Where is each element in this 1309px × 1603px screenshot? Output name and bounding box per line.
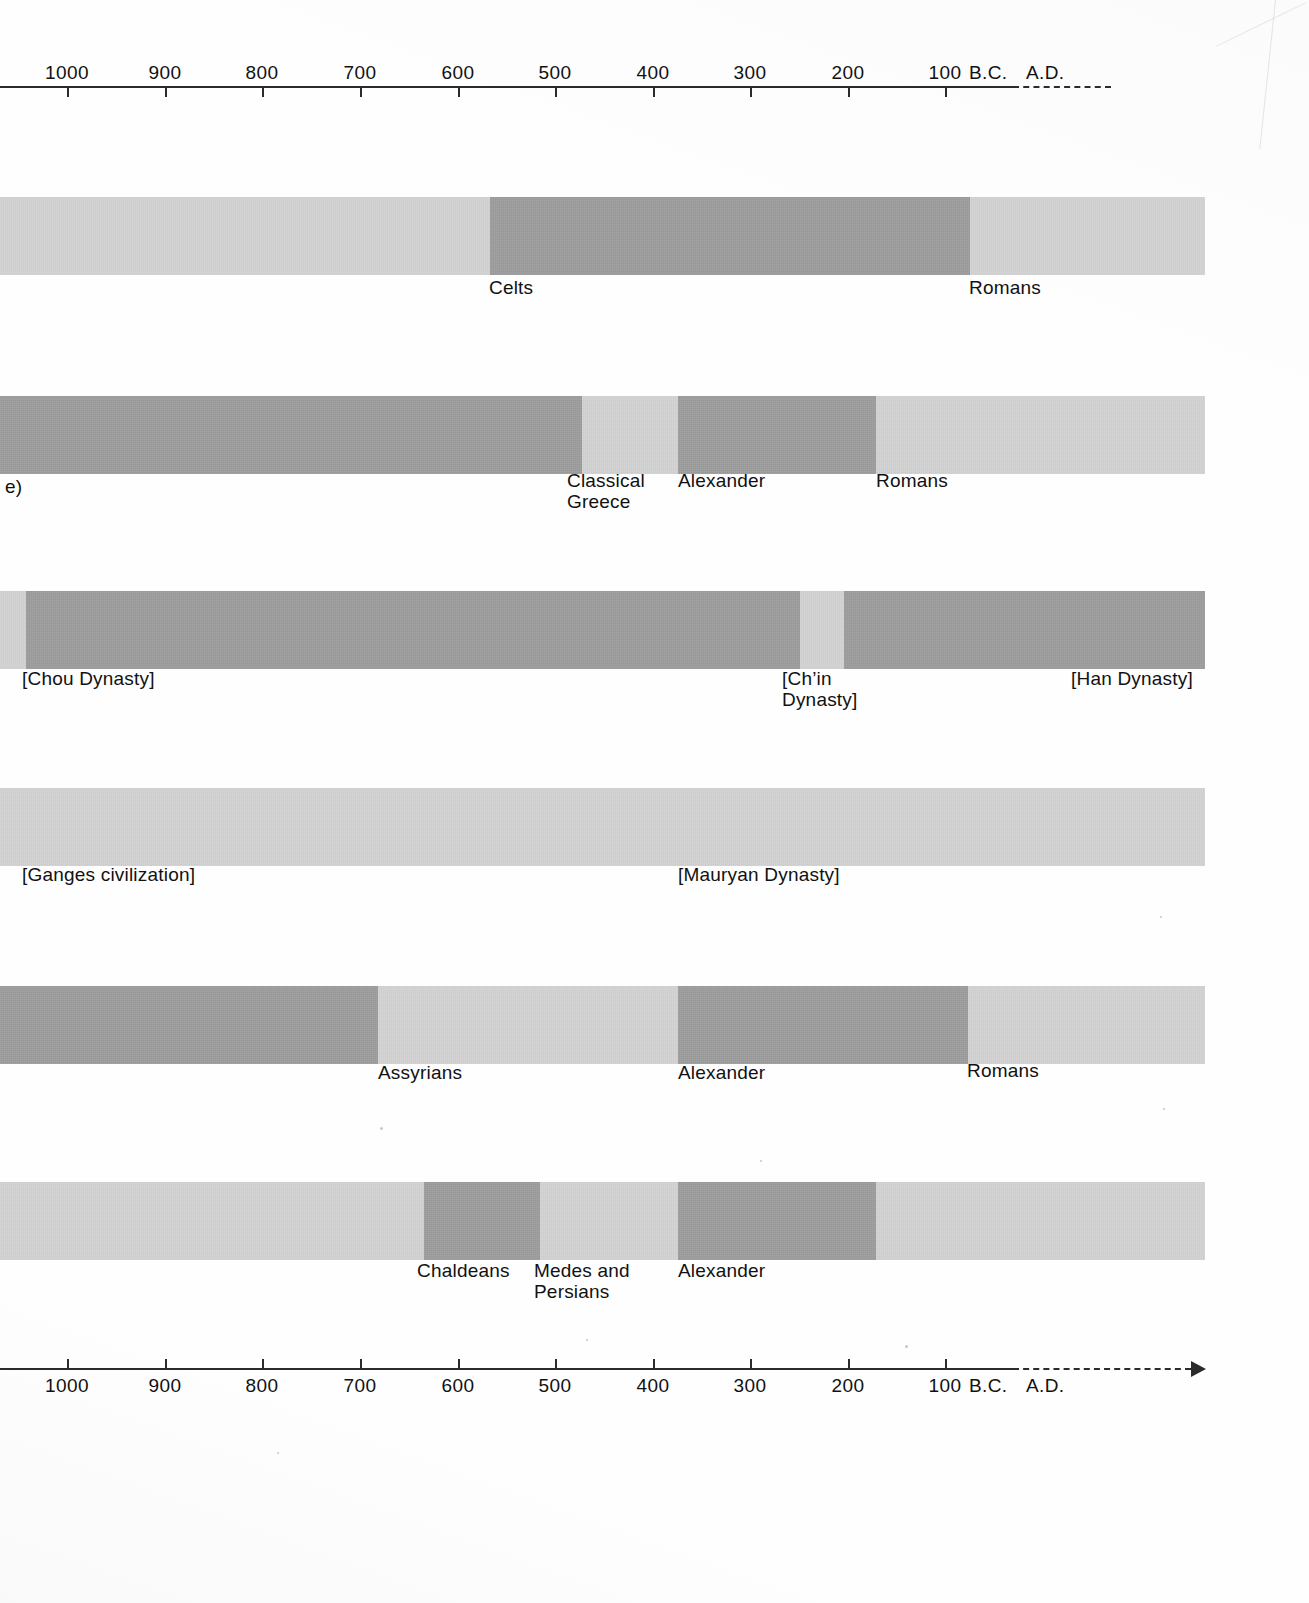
segment-label: [Ch’in Dynasty] xyxy=(782,668,858,710)
timeline-band xyxy=(0,197,1250,275)
top-axis-tick-900 xyxy=(165,88,167,97)
timeline-segment[interactable] xyxy=(970,197,1205,275)
top-axis-tick-label: 800 xyxy=(236,62,288,84)
top-axis-tick-500 xyxy=(555,88,557,97)
timeline-segment[interactable] xyxy=(0,986,378,1064)
bottom-axis-tick-400 xyxy=(653,1359,655,1368)
bottom-axis-tick-200 xyxy=(848,1359,850,1368)
paper-speck xyxy=(586,1339,588,1341)
paper-speck xyxy=(277,1452,279,1454)
bottom-time-axis: 1000900800700600500400300200100B.C.A.D. xyxy=(0,1346,1309,1392)
bottom-axis-tick-label: 200 xyxy=(822,1375,874,1397)
top-axis-tick-label: 400 xyxy=(627,62,679,84)
top-axis-tick-100 xyxy=(945,88,947,97)
segment-label: [Mauryan Dynasty] xyxy=(678,864,840,885)
top-axis-tick-label: 100 xyxy=(919,62,971,84)
top-axis-tick-label: 500 xyxy=(529,62,581,84)
bottom-axis-dashed-extension xyxy=(1013,1368,1191,1370)
bottom-axis-tick-label: 700 xyxy=(334,1375,386,1397)
bottom-axis-tick-700 xyxy=(360,1359,362,1368)
bottom-axis-tick-label: 400 xyxy=(627,1375,679,1397)
segment-label: Assyrians xyxy=(378,1062,462,1083)
timeline-segment[interactable] xyxy=(678,986,968,1064)
timeline-segment[interactable] xyxy=(844,591,1205,669)
segment-label: e) xyxy=(5,476,22,497)
top-axis-label-ad: A.D. xyxy=(1026,62,1065,84)
segment-label: Medes and Persians xyxy=(534,1260,630,1302)
timeline-segment[interactable] xyxy=(678,1182,876,1260)
paper-speck xyxy=(380,1127,383,1130)
top-axis-tick-label: 200 xyxy=(822,62,874,84)
top-axis-tick-400 xyxy=(653,88,655,97)
bottom-axis-tick-800 xyxy=(262,1359,264,1368)
timeline-segment[interactable] xyxy=(0,396,582,474)
bottom-axis-tick-300 xyxy=(750,1359,752,1368)
bottom-axis-line xyxy=(0,1368,1013,1370)
bottom-axis-tick-1000 xyxy=(67,1359,69,1368)
timeline-segment[interactable] xyxy=(678,396,876,474)
bottom-axis-tick-label: 500 xyxy=(529,1375,581,1397)
top-axis-tick-700 xyxy=(360,88,362,97)
top-axis-tick-800 xyxy=(262,88,264,97)
timeline-band xyxy=(0,788,1250,866)
segment-label: [Han Dynasty] xyxy=(1071,668,1193,689)
paper-speck xyxy=(1160,916,1162,918)
top-axis-line xyxy=(0,86,1013,88)
timeline-segment[interactable] xyxy=(0,591,26,669)
bottom-axis-tick-label: 300 xyxy=(724,1375,776,1397)
bottom-axis-tick-900 xyxy=(165,1359,167,1368)
timeline-segment[interactable] xyxy=(0,1182,424,1260)
timeline-segment[interactable] xyxy=(876,1182,1205,1260)
segment-label: Romans xyxy=(969,277,1041,298)
timeline-segment[interactable] xyxy=(490,197,970,275)
segment-label: Chaldeans xyxy=(417,1260,510,1281)
segment-label: Alexander xyxy=(678,1062,765,1083)
timeline-segment[interactable] xyxy=(424,1182,540,1260)
bottom-axis-tick-label: 1000 xyxy=(41,1375,93,1397)
paper-speck xyxy=(905,1345,908,1348)
segment-label: Classical Greece xyxy=(567,470,645,512)
timeline-segment[interactable] xyxy=(0,788,1205,866)
segment-label: [Ganges civilization] xyxy=(22,864,195,885)
top-axis-tick-600 xyxy=(458,88,460,97)
top-axis-tick-label: 900 xyxy=(139,62,191,84)
timeline-segment[interactable] xyxy=(800,591,844,669)
bottom-axis-tick-label: 600 xyxy=(432,1375,484,1397)
top-axis-tick-200 xyxy=(848,88,850,97)
top-axis-dashed-extension xyxy=(1013,86,1111,88)
top-axis-tick-label: 700 xyxy=(334,62,386,84)
bottom-axis-tick-label: 100 xyxy=(919,1375,971,1397)
segment-label: Alexander xyxy=(678,1260,765,1281)
top-axis-tick-label: 300 xyxy=(724,62,776,84)
paper-speck xyxy=(1163,1108,1165,1110)
timeline-segment[interactable] xyxy=(378,986,678,1064)
timeline-band xyxy=(0,591,1250,669)
timeline-segment[interactable] xyxy=(26,591,800,669)
timeline-band xyxy=(0,396,1250,474)
top-axis-tick-label: 600 xyxy=(432,62,484,84)
timeline-segment[interactable] xyxy=(968,986,1205,1064)
top-axis-tick-1000 xyxy=(67,88,69,97)
bottom-axis-tick-600 xyxy=(458,1359,460,1368)
bottom-axis-tick-500 xyxy=(555,1359,557,1368)
timeline-band xyxy=(0,1182,1250,1260)
segment-label: Celts xyxy=(489,277,533,298)
top-time-axis: 1000900800700600500400300200100B.C.A.D. xyxy=(0,40,1309,86)
timeline-segment[interactable] xyxy=(582,396,678,474)
bottom-axis-label-bc: B.C. xyxy=(969,1375,1008,1397)
top-axis-label-bc: B.C. xyxy=(969,62,1008,84)
top-axis-tick-300 xyxy=(750,88,752,97)
timeline-segment[interactable] xyxy=(0,197,490,275)
paper-speck xyxy=(760,1160,762,1162)
bottom-axis-arrowhead xyxy=(1191,1361,1206,1377)
timeline-segment[interactable] xyxy=(540,1182,678,1260)
top-axis-tick-label: 1000 xyxy=(41,62,93,84)
bottom-axis-tick-label: 900 xyxy=(139,1375,191,1397)
bottom-axis-tick-label: 800 xyxy=(236,1375,288,1397)
timeline-segment[interactable] xyxy=(876,396,1205,474)
timeline-band xyxy=(0,986,1250,1064)
bottom-axis-label-ad: A.D. xyxy=(1026,1375,1065,1397)
segment-label: [Chou Dynasty] xyxy=(22,668,155,689)
bottom-axis-tick-100 xyxy=(945,1359,947,1368)
